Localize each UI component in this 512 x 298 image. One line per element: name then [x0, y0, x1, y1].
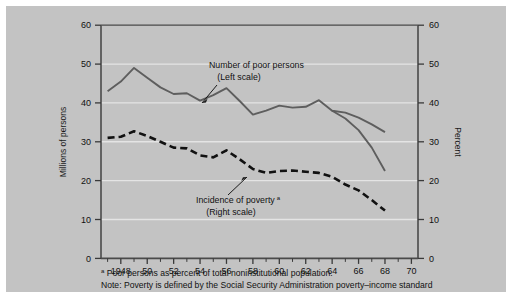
ytick-label-50: 50: [81, 59, 91, 69]
y2tick-label-30: 30: [429, 137, 439, 147]
y2tick-label-40: 40: [429, 98, 439, 108]
annotation-incidence-line2: (Right scale): [206, 207, 255, 217]
ytick-label-10: 10: [81, 215, 91, 225]
y2tick-label-0: 0: [429, 254, 434, 264]
right-axis-title: Percent: [453, 127, 463, 157]
y2tick-label-50: 50: [429, 59, 439, 69]
ytick-label-20: 20: [81, 176, 91, 186]
ytick-label-60: 60: [81, 20, 91, 30]
ytick-label-0: 0: [86, 254, 91, 264]
left-axis-title: Millions of persons: [58, 107, 68, 177]
annotation-incidence-line1: Incidence of povertya: [196, 195, 281, 206]
chart-plot-container: 0 10 20 30 40 50 60 0 10 20 30 40 50 60 …: [6, 6, 506, 292]
y2tick-label-60: 60: [429, 20, 439, 30]
footnote-line-2: Note: Poverty is defined by the Social S…: [101, 280, 433, 290]
footnote-line-1: a Poor persons as percent of total nonin…: [101, 268, 333, 278]
chart-figure: 0 10 20 30 40 50 60 0 10 20 30 40 50 60 …: [6, 6, 506, 292]
poverty-line-chart: 0 10 20 30 40 50 60 0 10 20 30 40 50 60 …: [6, 6, 506, 292]
footnote-line-1-text: Poor persons as percent of total noninst…: [104, 268, 332, 278]
ytick-label-30: 30: [81, 137, 91, 147]
annotation-incidence-text: Incidence of poverty: [196, 195, 275, 205]
xtick-label: 70: [406, 266, 416, 276]
annotation-poor-persons-line1: Number of poor persons: [209, 60, 304, 70]
ytick-label-40: 40: [81, 98, 91, 108]
xtick-label: 66: [354, 266, 364, 276]
figure-background: [6, 6, 506, 292]
y2tick-label-20: 20: [429, 176, 439, 186]
y2tick-label-10: 10: [429, 215, 439, 225]
annotation-poor-persons-line2: (Left scale): [217, 72, 261, 82]
xtick-label: 68: [380, 266, 390, 276]
